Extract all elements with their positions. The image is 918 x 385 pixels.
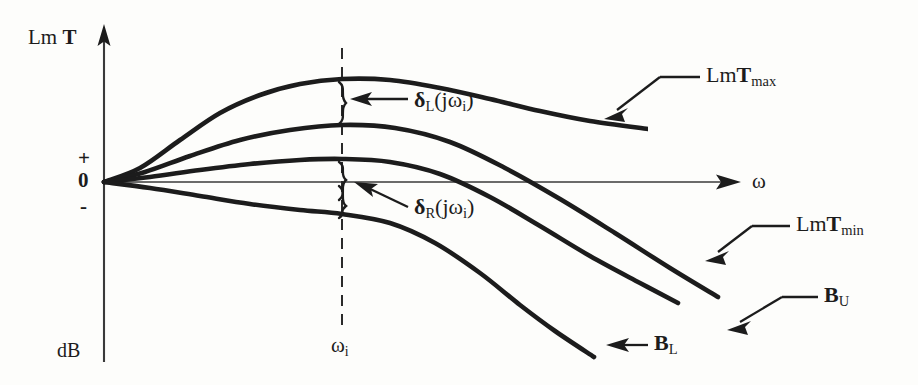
delta-right-arg: (jω xyxy=(435,194,463,219)
lm-t-min-symbol: T xyxy=(827,211,842,236)
omega-i-symbol: ω xyxy=(331,333,345,357)
b-u-symbol: B xyxy=(824,282,839,307)
bode-bounds-figure xyxy=(0,0,918,385)
y-axis-title-symbol: T xyxy=(62,25,76,49)
delta-right-arg-close: ) xyxy=(467,194,474,219)
lm-t-max-symbol: T xyxy=(737,62,752,87)
curve-label-lm-t-max: LmTmax xyxy=(706,64,776,86)
delta-left-subscript: L xyxy=(425,98,434,114)
y-axis-unit-db: dB xyxy=(57,340,80,360)
lm-t-min-subscript: min xyxy=(841,222,864,238)
omega-i-subscript: i xyxy=(345,344,349,359)
lm-t-min-prefix: Lm xyxy=(796,211,827,236)
delta-right-label: δR(jωi) xyxy=(414,196,474,218)
curve-label-b-l: BL xyxy=(654,332,678,354)
lm-t-max-prefix: Lm xyxy=(706,62,737,87)
b-u-subscript: U xyxy=(839,293,849,309)
curve-label-b-u: BU xyxy=(824,284,849,306)
delta-right-subscript: R xyxy=(425,205,435,221)
delta-right-symbol: δ xyxy=(414,194,425,219)
b-l-subscript: L xyxy=(669,341,678,357)
delta-left-symbol: δ xyxy=(414,87,425,112)
y-axis-title-prefix: Lm xyxy=(28,25,62,49)
lm-t-max-subscript: max xyxy=(751,73,776,89)
figure-background xyxy=(0,0,918,385)
b-l-symbol: B xyxy=(654,330,669,355)
y-tick-minus: - xyxy=(80,196,87,217)
delta-left-arg-close: ) xyxy=(466,87,473,112)
trim-max xyxy=(648,118,660,140)
y-axis-title: Lm T xyxy=(28,27,76,48)
x-axis-label-omega: ω xyxy=(752,171,766,192)
curve-label-lm-t-min: LmTmin xyxy=(796,213,864,235)
delta-left-label: δL(jωi) xyxy=(414,89,474,111)
y-tick-zero: 0 xyxy=(78,170,89,191)
y-tick-plus: + xyxy=(78,148,90,169)
delta-left-arg: (jω xyxy=(434,87,462,112)
delta-left-arg-subscript: i xyxy=(462,98,466,114)
omega-i-label: ωi xyxy=(331,335,349,356)
delta-right-arg-subscript: i xyxy=(463,205,467,221)
